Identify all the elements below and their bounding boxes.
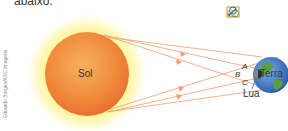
earth-label: Terra bbox=[260, 68, 283, 79]
point-b-label: B bbox=[235, 70, 240, 79]
point-a-label: A bbox=[242, 62, 247, 71]
moon-label: Lua bbox=[243, 88, 260, 99]
sun-label: Sol bbox=[78, 68, 92, 79]
ray-arrows bbox=[176, 51, 186, 100]
point-c-label: C bbox=[242, 78, 248, 87]
venn-icon[interactable] bbox=[226, 6, 240, 18]
